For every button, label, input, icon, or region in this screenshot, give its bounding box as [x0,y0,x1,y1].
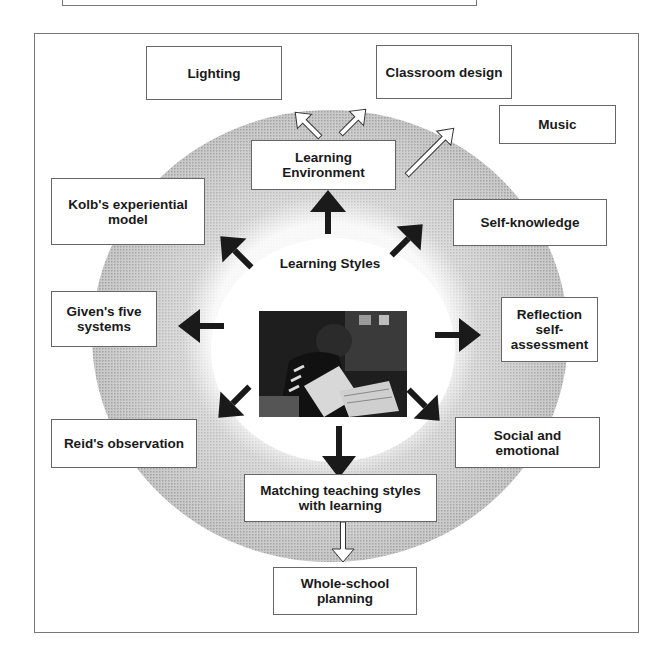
node-learning-environment[interactable]: Learning Environment [251,140,396,190]
photo-image-icon [259,311,407,417]
node-lighting[interactable]: Lighting [146,46,282,100]
node-givens-five-systems[interactable]: Given's five systems [51,291,157,347]
node-social-and-emotional[interactable]: Social and emotional [455,417,600,468]
node-kolb-experiential-model[interactable]: Kolb's experiential model [51,178,205,245]
node-self-knowledge[interactable]: Self-knowledge [453,199,607,246]
node-whole-school-planning[interactable]: Whole-school planning [273,567,417,615]
node-classroom-design[interactable]: Classroom design [376,45,512,99]
center-title: Learning Styles [250,256,410,271]
node-matching-teaching-styles[interactable]: Matching teaching styles with learning [244,474,437,522]
node-reflection-self-assessment[interactable]: Reflection self-assessment [501,297,598,362]
student-photo [259,311,407,417]
node-reids-observation[interactable]: Reid's observation [51,419,197,468]
node-music[interactable]: Music [499,105,616,144]
